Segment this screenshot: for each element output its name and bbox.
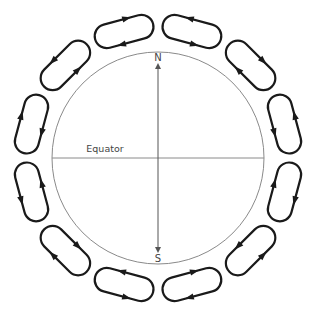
loop-outline	[12, 160, 51, 224]
circulation-loop	[159, 262, 225, 307]
circulation-loop	[262, 91, 307, 157]
circulation-loop	[91, 262, 157, 307]
circulation-loop	[262, 159, 307, 225]
loop-outline	[265, 160, 304, 224]
loop-outline	[221, 36, 280, 95]
circulation-loop	[159, 9, 225, 54]
circulation-loop	[9, 159, 54, 225]
loop-outline	[12, 92, 51, 156]
circulation-cells-diagram: N S Equator	[0, 0, 316, 316]
loop-outline	[36, 36, 95, 95]
circulation-loop	[219, 33, 283, 97]
circulation-loop	[33, 33, 97, 97]
circulation-loop	[9, 91, 54, 157]
circulation-loop	[33, 219, 97, 283]
loop-outline	[221, 221, 280, 280]
equator-label: Equator	[86, 143, 123, 154]
circulation-loop	[219, 219, 283, 283]
north-label: N	[154, 52, 161, 63]
loop-outline	[265, 92, 304, 156]
circulation-loop	[91, 9, 157, 54]
loop-outline	[36, 221, 95, 280]
south-label: S	[155, 253, 161, 264]
